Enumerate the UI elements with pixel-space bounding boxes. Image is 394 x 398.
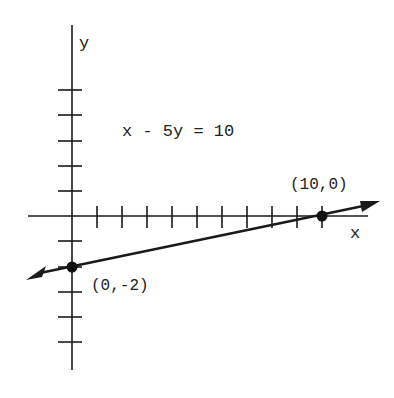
coordinate-graph: y x x - 5y = 10 (10,0) (0,-2) [0,0,394,398]
arrowhead-right-icon [360,201,380,212]
point-0-neg2 [67,262,78,273]
y-axis-label: y [79,34,89,53]
arrowhead-left-icon [26,266,46,280]
x-axis-label: x [350,224,360,243]
point-10-0 [317,211,328,222]
equation-label: x - 5y = 10 [122,122,234,141]
point-label-10-0: (10,0) [290,176,348,194]
point-label-0-neg2: (0,-2) [91,277,149,295]
x-axis-ticks [97,206,322,228]
